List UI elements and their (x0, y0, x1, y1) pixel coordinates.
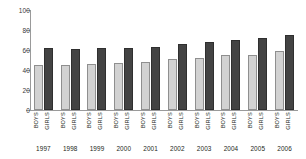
x-label-girls: GIRLS (285, 112, 295, 130)
x-group-labels: BOYSGIRLS (33, 112, 54, 142)
x-group-labels: BOYSGIRLS (140, 112, 161, 142)
bar-group (218, 10, 245, 110)
y-tick-label: 100 (6, 7, 30, 14)
x-label-girls: GIRLS (258, 112, 268, 130)
x-category: BOYSGIRLS2004 (218, 112, 245, 159)
bar-boys-2002 (168, 59, 177, 110)
y-tick-label-wrap: 100 (0, 7, 30, 14)
x-label-girls: GIRLS (97, 112, 107, 130)
x-group-labels: BOYSGIRLS (274, 112, 295, 142)
x-label-boys: BOYS (86, 112, 96, 128)
y-tick-label: 40 (6, 67, 30, 74)
x-category: BOYSGIRLS2005 (244, 112, 271, 159)
bar-girls-1997 (44, 48, 53, 110)
x-group-labels: BOYSGIRLS (113, 112, 134, 142)
bar-group (191, 10, 218, 110)
bar-group (271, 10, 298, 110)
x-label-girls: GIRLS (205, 112, 215, 130)
x-label-boys: BOYS (60, 112, 70, 128)
x-label-boys: BOYS (274, 112, 284, 128)
y-tick-label: 60 (6, 47, 30, 54)
x-category: BOYSGIRLS1999 (84, 112, 111, 159)
bar-girls-2001 (151, 47, 160, 110)
bar-girls-1999 (97, 48, 106, 110)
bar-girls-2000 (124, 48, 133, 110)
bar-boys-2001 (141, 62, 150, 110)
x-label-girls: GIRLS (178, 112, 188, 130)
x-year-label: 2002 (170, 145, 185, 153)
bar-boys-2005 (248, 55, 257, 110)
x-label-boys: BOYS (220, 112, 230, 128)
bar-group (164, 10, 191, 110)
x-axis-labels: BOYSGIRLS1997BOYSGIRLS1998BOYSGIRLS1999B… (30, 112, 298, 159)
x-category: BOYSGIRLS2000 (110, 112, 137, 159)
bar-boys-1997 (34, 65, 43, 110)
x-category: BOYSGIRLS1998 (57, 112, 84, 159)
bar-girls-2003 (205, 42, 214, 110)
x-label-girls: GIRLS (71, 112, 81, 130)
x-category: BOYSGIRLS2002 (164, 112, 191, 159)
bar-girls-2004 (231, 40, 240, 110)
bar-girls-2006 (285, 35, 294, 110)
y-tick-label-wrap: 80 (0, 27, 30, 34)
y-tick-label: 20 (6, 87, 30, 94)
x-label-boys: BOYS (167, 112, 177, 128)
bar-boys-2004 (221, 55, 230, 110)
bar-boys-1999 (87, 64, 96, 110)
bar-boys-2000 (114, 63, 123, 110)
bar-girls-2002 (178, 44, 187, 110)
x-year-label: 2001 (143, 145, 158, 153)
y-tick-label-wrap: 40 (0, 67, 30, 74)
x-category: BOYSGIRLS1997 (30, 112, 57, 159)
x-year-label: 2000 (116, 145, 131, 153)
bar-group (137, 10, 164, 110)
y-tick-label-wrap: 20 (0, 87, 30, 94)
x-group-labels: BOYSGIRLS (194, 112, 215, 142)
x-year-label: 1999 (90, 145, 105, 153)
x-group-labels: BOYSGIRLS (86, 112, 107, 142)
x-year-label: 2003 (197, 145, 212, 153)
x-year-label: 1997 (36, 145, 51, 153)
y-tick-label: 80 (6, 27, 30, 34)
x-group-labels: BOYSGIRLS (60, 112, 81, 142)
bar-group (244, 10, 271, 110)
x-label-girls: GIRLS (151, 112, 161, 130)
bar-boys-2003 (195, 58, 204, 110)
bar-girls-2005 (258, 38, 267, 110)
x-year-label: 1998 (63, 145, 78, 153)
x-year-label: 2006 (277, 145, 292, 153)
x-category: BOYSGIRLS2001 (137, 112, 164, 159)
x-group-labels: BOYSGIRLS (247, 112, 268, 142)
x-year-label: 2004 (224, 145, 239, 153)
x-label-girls: GIRLS (44, 112, 54, 130)
bar-boys-1998 (61, 65, 70, 110)
x-label-girls: GIRLS (231, 112, 241, 130)
bar-boys-2006 (275, 51, 284, 110)
x-label-boys: BOYS (33, 112, 43, 128)
x-year-label: 2005 (250, 145, 265, 153)
y-tick-label-wrap: 0 (0, 107, 30, 114)
x-label-boys: BOYS (194, 112, 204, 128)
bar-chart: 020406080100 BOYSGIRLS1997BOYSGIRLS1998B… (0, 0, 306, 159)
bar-group (57, 10, 84, 110)
x-category: BOYSGIRLS2003 (191, 112, 218, 159)
bar-girls-1998 (71, 49, 80, 110)
bar-group (110, 10, 137, 110)
bar-group (30, 10, 57, 110)
y-tick-label: 0 (6, 107, 30, 114)
x-group-labels: BOYSGIRLS (220, 112, 241, 142)
x-label-boys: BOYS (247, 112, 257, 128)
bar-groups (30, 10, 298, 110)
x-label-boys: BOYS (140, 112, 150, 128)
x-category: BOYSGIRLS2006 (271, 112, 298, 159)
x-group-labels: BOYSGIRLS (167, 112, 188, 142)
x-label-boys: BOYS (113, 112, 123, 128)
bar-group (84, 10, 111, 110)
y-tick-label-wrap: 60 (0, 47, 30, 54)
x-label-girls: GIRLS (124, 112, 134, 130)
